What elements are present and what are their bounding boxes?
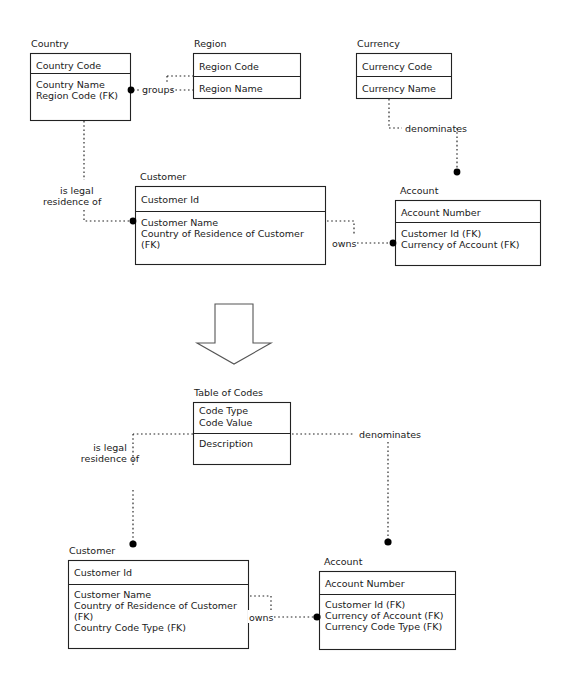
entity-title-customer-bottom: Customer [69,545,115,556]
entity-attr-country-1: Region Code (FK) [36,90,118,101]
entity-attr-customer-top-2: (FK) [141,239,160,250]
relationship-cardinality-dot-denominates-bottom [384,538,391,545]
entity-title-account-top: Account [400,185,439,196]
entity-attr-customer-top-0: Customer Name [141,217,218,228]
relationship-label-residence-line1: is legal [60,185,94,196]
entity-attr-currency-0: Currency Name [362,83,436,94]
entity-table-of-codes[interactable]: Table of Codes Code Type Code Value Desc… [193,387,291,465]
relationship-label-residence-line2: residence of [43,196,102,207]
entity-attr-account-bottom-2: Currency Code Type (FK) [325,621,442,632]
entity-attr-customer-bottom-1: Country of Residence of Customer [74,600,237,611]
entity-key-currency-0: Currency Code [362,61,432,72]
relationship-cardinality-dot-groups [128,87,135,94]
entity-customer-bottom[interactable]: Customer Customer Id Customer Name Count… [69,545,249,649]
entity-attr-region-0: Region Name [199,83,263,94]
entity-attr-customer-bottom-0: Customer Name [74,589,151,600]
entity-account-top[interactable]: Account Account Number Customer Id (FK) … [396,185,541,266]
entity-title-country: Country [31,38,69,49]
entity-title-account-bottom: Account [324,556,363,567]
entity-key-customer-top-0: Customer Id [141,194,199,205]
relationship-cardinality-dot-residence [130,218,137,225]
entity-attr-account-top-0: Customer Id (FK) [401,228,481,239]
relationship-is-legal-residence-of-bottom[interactable]: is legal residence of [81,434,193,548]
entity-key-table-of-codes-1: Code Value [199,417,253,428]
entity-key-region-0: Region Code [199,61,259,72]
relationship-label-denominates: denominates [405,123,467,134]
entity-title-region: Region [194,38,227,49]
entity-country[interactable]: Country Country Code Country Name Region… [31,38,131,121]
entity-region[interactable]: Region Region Code Region Name [194,38,301,99]
downward-transformation-arrow [197,304,271,364]
relationship-label-denominates-bottom: denominates [359,429,421,440]
entity-key-account-bottom-0: Account Number [325,578,405,589]
relationship-is-legal-residence-of-top[interactable]: is legal residence of [43,121,136,224]
entity-attr-table-of-codes-0: Description [199,438,253,449]
relationship-denominates-bottom[interactable]: denominates [292,429,421,546]
entity-account-bottom[interactable]: Account Account Number Customer Id (FK) … [320,556,456,650]
relationship-cardinality-dot-denominates [454,169,461,176]
relationship-line-residence-b [84,210,131,221]
relationship-label-owns-bottom: owns [249,612,274,623]
relationship-owns-top[interactable]: owns [327,221,396,249]
relationship-denominates-top[interactable]: denominates [389,99,467,175]
entity-title-currency: Currency [357,38,400,49]
relationship-cardinality-dot-owns-bottom [313,613,320,620]
entity-key-table-of-codes-0: Code Type [199,405,248,416]
entity-key-country-0: Country Code [36,60,101,71]
relationship-groups-top[interactable]: groups [128,76,193,96]
entity-attr-account-top-1: Currency of Account (FK) [401,239,519,250]
entity-title-customer-top: Customer [140,171,186,182]
entity-customer-top[interactable]: Customer Customer Id Customer Name Count… [136,171,326,265]
diagram-canvas: Country Country Code Country Name Region… [0,0,570,683]
relationship-label-residence-bottom-line1: is legal [93,442,127,453]
entity-attr-customer-bottom-2: (FK) [74,611,93,622]
relationship-label-residence-bottom-line2: residence of [81,453,140,464]
entity-attr-customer-top-1: Country of Residence of Customer [141,228,304,239]
relationship-owns-bottom[interactable]: owns [248,596,321,623]
entity-currency[interactable]: Currency Currency Code Currency Name [357,38,452,99]
entity-attr-customer-bottom-3: Country Code Type (FK) [74,622,186,633]
entity-key-account-top-0: Account Number [401,207,481,218]
relationship-cardinality-dot-owns [390,240,397,247]
entity-key-customer-bottom-0: Customer Id [74,567,132,578]
er-diagram-figure: Country Country Code Country Name Region… [0,0,570,683]
relationship-label-groups: groups [142,84,175,95]
relationship-cardinality-dot-residence-bottom [129,540,136,547]
entity-attr-account-bottom-1: Currency of Account (FK) [325,610,443,621]
entity-attr-country-0: Country Name [36,79,105,90]
entity-attr-account-bottom-0: Customer Id (FK) [325,599,405,610]
entity-title-table-of-codes: Table of Codes [193,387,263,398]
relationship-label-owns: owns [332,238,357,249]
